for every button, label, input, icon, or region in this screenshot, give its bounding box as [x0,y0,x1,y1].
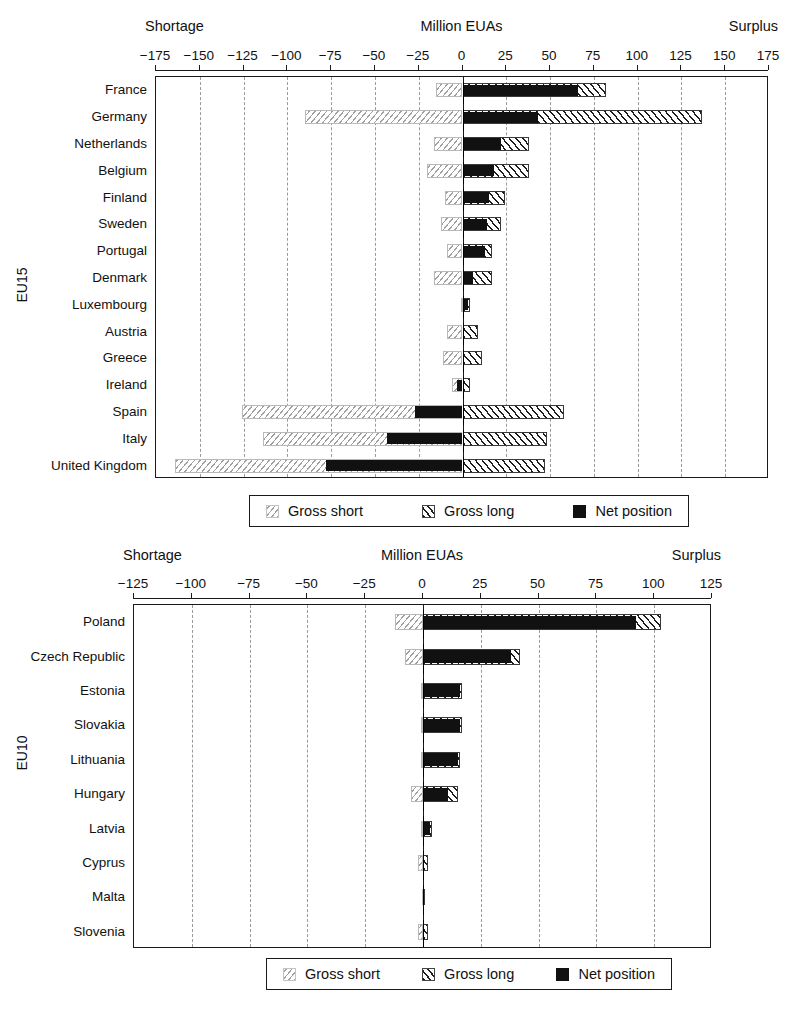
legend-item-net-position[interactable]: Net position [573,503,672,519]
net-position-bar [423,616,636,629]
x-axis-tick [199,65,200,70]
x-axis-tick [418,65,419,70]
bar-row [156,399,767,426]
x-axis-tick [306,593,307,598]
category-label: Germany [0,109,147,124]
gross-short-bar [447,244,463,258]
row-tick [423,639,424,644]
net-position-bar [463,192,489,203]
bar-row [134,811,710,845]
bar-row [156,238,767,265]
row-tick [463,265,464,270]
gross-short-bar [405,649,423,665]
row-tick [463,104,464,109]
category-label: Latvia [0,820,125,835]
row-tick [463,211,464,216]
bar-row [156,157,767,184]
bar-row [134,846,710,880]
legend-label: Gross short [288,503,363,519]
x-tick-label: 75 [588,576,603,591]
gross-short-bar [427,164,462,178]
category-label: Portugal [0,243,147,258]
x-axis-tick [330,65,331,70]
shortage-label: Shortage [123,547,283,563]
bar-row [156,211,767,238]
row-tick [423,777,424,782]
bar-row [156,291,767,318]
gross-long-bar [463,351,482,365]
gross-short-bar [445,191,463,205]
x-tick-label: 50 [530,576,545,591]
legend-item-gross-short[interactable]: Gross short [283,966,380,982]
x-tick-label: −75 [237,576,260,591]
net-position-bar [423,822,430,835]
row-tick [423,674,424,679]
category-label: Cyprus [0,855,125,870]
x-axis-tick [249,593,250,598]
category-label: Finland [0,189,147,204]
legend-item-net-position[interactable]: Net position [556,966,655,982]
legend-label: Gross long [444,503,514,519]
net-position-bar [463,219,488,230]
x-axis-tick [462,65,463,70]
row-tick [423,605,424,610]
net-position-bar [423,788,448,801]
legend-item-gross-long[interactable]: Gross long [422,966,514,982]
x-tick-label: 175 [757,48,780,63]
row-tick [423,811,424,816]
x-tick-label: −25 [353,576,376,591]
row-tick [423,915,424,920]
x-axis-tick [191,593,192,598]
gross-short-bar [447,325,463,339]
surplus-label: Surplus [561,547,721,563]
x-axis-tick [133,593,134,598]
x-tick-label: 25 [498,48,513,63]
category-label: Poland [0,614,125,629]
x-tick-label: 25 [472,576,487,591]
bar-row [156,345,767,372]
x-axis-tick [243,65,244,70]
x-axis-tick [680,65,681,70]
net-position-bar [423,650,511,663]
row-tick [463,425,464,430]
bar-row [134,639,710,673]
legend-label: Gross long [444,966,514,982]
x-tick-label: 100 [642,576,665,591]
bar-row [156,425,767,452]
zero-line [423,605,424,947]
gross-long-bar [463,459,545,473]
x-tick-label: −75 [319,48,342,63]
net-position-bar [463,165,495,176]
bar-row [134,674,710,708]
bar-row [156,265,767,292]
category-label: France [0,82,147,97]
legend: Gross shortGross longNet position [249,495,689,527]
bar-row [134,708,710,742]
category-label: Hungary [0,786,125,801]
net-position-swatch-icon [573,505,586,518]
row-tick [463,157,464,162]
row-tick [463,131,464,136]
category-label: Malta [0,889,125,904]
category-label: Sweden [0,216,147,231]
x-tick-label: 125 [700,576,723,591]
gross-short-bar [443,351,462,365]
net-position-bar [326,460,463,471]
legend-item-gross-long[interactable]: Gross long [422,503,514,519]
gross-short-bar [436,83,462,97]
x-axis-tick [711,593,712,598]
chart-eu10: ShortageMillion EUAsSurplus−125−100−75−5… [0,540,790,1004]
gross-long-bar [463,405,565,419]
net-position-bar [423,753,458,766]
x-axis-tick [549,65,550,70]
bar-row [134,915,710,948]
category-label: Spain [0,404,147,419]
bar-row [134,605,710,639]
gross-short-bar [434,137,462,151]
legend-item-gross-short[interactable]: Gross short [266,503,363,519]
million-euas-label: Million EUAs [352,18,572,34]
bar-row [156,77,767,104]
net-position-bar [387,433,462,444]
net-position-bar [463,112,538,123]
category-label: Italy [0,430,147,445]
